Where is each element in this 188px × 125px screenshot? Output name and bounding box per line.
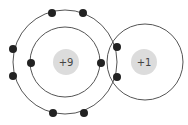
electron: [49, 109, 57, 117]
hydrogen-atom: +1: [107, 24, 183, 100]
electron: [97, 59, 105, 67]
electron: [48, 9, 56, 17]
electron: [9, 72, 17, 80]
electron: [9, 45, 17, 53]
electron: [27, 59, 35, 67]
electron: [80, 109, 88, 117]
fluorine-nucleus-label: +9: [59, 57, 74, 68]
shared-electron: [113, 73, 121, 81]
electron: [79, 9, 87, 17]
hydrogen-nucleus-label: +1: [137, 57, 152, 68]
hf-bonding-diagram: +9 +1: [0, 0, 188, 125]
shared-electron: [113, 43, 121, 51]
